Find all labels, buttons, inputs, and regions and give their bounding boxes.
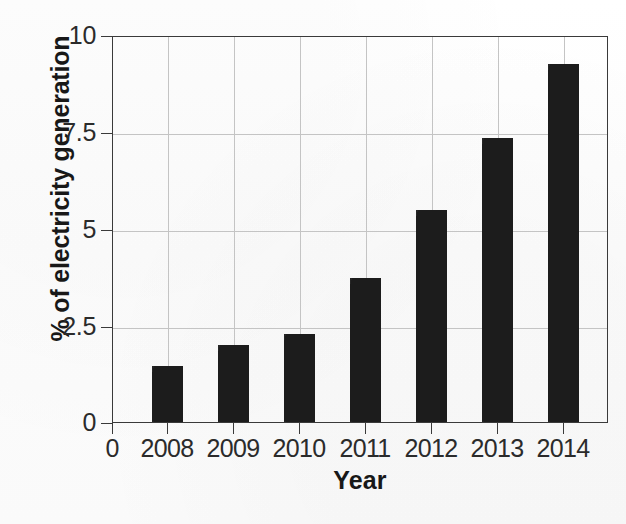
y-tick-mark-2.5 — [101, 327, 112, 328]
y-tick-label-5: 5 — [0, 215, 96, 244]
y-tick-mark-7.5 — [101, 133, 112, 134]
bar-2012 — [416, 210, 447, 422]
y-tick-label-2.5: 2.5 — [0, 312, 96, 341]
x-tick-mark-2013 — [497, 423, 498, 434]
y-tick-mark-10 — [101, 36, 112, 37]
gridline-x-2008 — [168, 37, 169, 422]
x-tick-label-2010: 2010 — [264, 434, 334, 463]
bar-2008 — [152, 366, 183, 422]
y-tick-mark-0 — [101, 423, 112, 424]
x-tick-mark-2012 — [431, 423, 432, 434]
plot-area — [112, 36, 608, 423]
x-tick-mark-2009 — [233, 423, 234, 434]
y-tick-mark-5 — [101, 230, 112, 231]
x-tick-label-2014: 2014 — [528, 434, 598, 463]
x-tick-mark-2010 — [299, 423, 300, 434]
x-tick-mark-2014 — [563, 423, 564, 434]
x-tick-mark-origin — [112, 423, 113, 434]
gridline-y-5 — [113, 231, 607, 232]
bar-2011 — [350, 278, 381, 422]
gridline-y-7.5 — [113, 134, 607, 135]
x-tick-label-2013: 2013 — [462, 434, 532, 463]
x-tick-label-2008: 2008 — [132, 434, 202, 463]
bar-2010 — [284, 334, 315, 422]
x-tick-label-2009: 2009 — [198, 434, 268, 463]
x-axis-title: Year — [112, 466, 608, 495]
chart-page: % of electricity generation 10 7.5 5 2.5… — [0, 0, 626, 524]
x-tick-label-2012: 2012 — [396, 434, 466, 463]
x-tick-mark-2011 — [365, 423, 366, 434]
x-tick-mark-2008 — [167, 423, 168, 434]
bar-2009 — [218, 345, 249, 422]
bar-2014 — [548, 64, 579, 422]
x-tick-label-2011: 2011 — [330, 434, 400, 463]
y-tick-label-10: 10 — [0, 21, 96, 50]
y-tick-label-7.5: 7.5 — [0, 118, 96, 147]
y-tick-label-0: 0 — [0, 408, 96, 437]
bar-2013 — [482, 138, 513, 422]
